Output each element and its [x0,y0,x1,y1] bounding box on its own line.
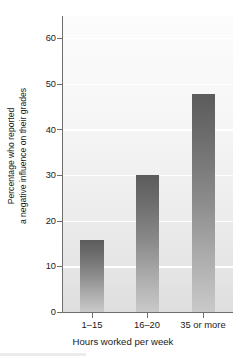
x-tick-label-2: 16–20 [134,319,160,330]
x-tick-mark-3 [203,313,204,318]
y-tick-mark-10 [57,266,62,267]
x-axis-tick-labels: 1–15 16–20 35 or more [0,319,246,333]
y-tick-label-50: 50 [30,80,56,89]
y-axis-title-line-1: Percentage who reported [6,88,18,224]
x-axis-line [63,312,233,313]
x-tick-label-3: 35 or more [180,319,225,330]
bar-16-20 [136,175,159,312]
x-axis-title: Hours worked per week [0,336,246,347]
y-tick-label-30: 30 [30,171,56,180]
bar-chart-figure: Percentage who reported a negative influ… [0,0,246,358]
y-tick-label-20: 20 [30,217,56,226]
bar-35-or-more [192,94,215,312]
x-tick-label-1: 1–15 [82,319,103,330]
y-axis-tick-labels: 0 10 20 30 40 50 60 [30,0,56,358]
y-tick-mark-40 [57,129,62,130]
y-tick-label-10: 10 [30,262,56,271]
x-tick-mark-2 [147,313,148,318]
y-axis-title-line-2: a negative influence on their grades [17,88,29,224]
y-tick-mark-50 [57,84,62,85]
y-tick-mark-30 [57,175,62,176]
plot-area [63,16,233,312]
x-tick-mark-1 [92,313,93,318]
y-tick-mark-20 [57,221,62,222]
gridline-60 [63,38,233,39]
y-tick-label-0: 0 [30,308,56,317]
y-axis-title: Percentage who reported a negative influ… [0,0,34,312]
bar-1-15 [80,240,104,312]
y-axis-title-text: Percentage who reported a negative influ… [6,88,29,224]
gridline-50 [63,84,233,85]
y-tick-mark-0 [57,312,62,313]
y-tick-label-60: 60 [30,34,56,43]
y-tick-label-40: 40 [30,126,56,135]
y-tick-mark-60 [57,38,62,39]
bottom-edge-strip [0,353,86,356]
